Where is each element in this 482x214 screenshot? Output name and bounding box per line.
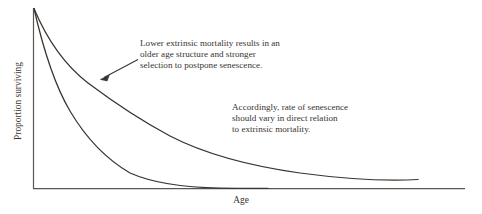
annotation-line: selection to postpone senescence. (140, 60, 280, 71)
annotation-line: should vary in direct relation (232, 113, 348, 124)
annotation-line: older age structure and stronger (140, 49, 280, 60)
x-axis-label: Age (0, 195, 482, 205)
annotation-line: to extrinsic mortality. (232, 124, 348, 135)
annotation-line: Accordingly, rate of senescence (232, 102, 348, 113)
annotation-lower-mortality: Lower extrinsic mortality results in an … (140, 38, 280, 71)
annotation-arrow-icon (101, 60, 139, 81)
slow-senescence-curve (34, 9, 418, 180)
annotation-line: Lower extrinsic mortality results in an (140, 38, 280, 49)
y-axis-label: Proportion surviving (13, 51, 23, 151)
survivorship-curve-figure: Proportion surviving Age Lower extrinsic… (0, 0, 482, 214)
fast-senescence-curve (34, 9, 268, 189)
annotation-senescence-rate: Accordingly, rate of senescence should v… (232, 102, 348, 135)
